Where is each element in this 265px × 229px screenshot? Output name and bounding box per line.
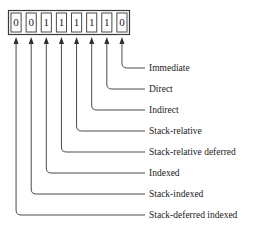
bit-value: 0 [13, 16, 19, 28]
bit-value: 1 [44, 16, 50, 28]
mode-label-text: Stack-relative [149, 126, 202, 136]
mode-label-text: Stack-relative deferred [149, 147, 236, 157]
leader-line [122, 43, 145, 68]
leader-lines [14, 37, 145, 215]
mode-labels: ImmediateDirectIndirectStack-relativeSta… [149, 63, 238, 220]
leader-arrowhead [59, 37, 64, 44]
leader-line [107, 43, 145, 89]
leader-arrowhead [89, 37, 94, 44]
bit-value: 1 [59, 16, 65, 28]
leader-arrowhead [74, 37, 79, 44]
bit-field: 00111110 [9, 11, 130, 35]
mode-label-text: Stack-deferred indexed [149, 210, 238, 220]
leader-line [16, 43, 145, 215]
diagram-canvas: 00111110 ImmediateDirectIndirectStack-re… [0, 0, 265, 229]
leader-arrowhead [44, 37, 49, 44]
leader-line [31, 43, 145, 194]
bit-value: 0 [28, 16, 34, 28]
mode-label-text: Immediate [149, 63, 190, 73]
mode-label-text: Stack-indexed [149, 189, 204, 199]
leader-arrowhead [104, 37, 109, 44]
leader-arrowhead [14, 37, 19, 44]
leader-line [92, 43, 145, 110]
mode-label-text: Direct [149, 84, 173, 94]
bit-value: 1 [104, 16, 110, 28]
addressing-mode-diagram: 00111110 ImmediateDirectIndirectStack-re… [0, 0, 265, 229]
mode-label-text: Indexed [149, 168, 180, 178]
bit-value: 1 [74, 16, 80, 28]
bit-value: 1 [89, 16, 95, 28]
leader-arrowhead [119, 37, 124, 44]
mode-label-text: Indirect [149, 105, 179, 115]
leader-line [77, 43, 145, 131]
leader-arrowhead [29, 37, 34, 44]
leader-line [61, 43, 145, 152]
bit-value: 0 [119, 16, 125, 28]
